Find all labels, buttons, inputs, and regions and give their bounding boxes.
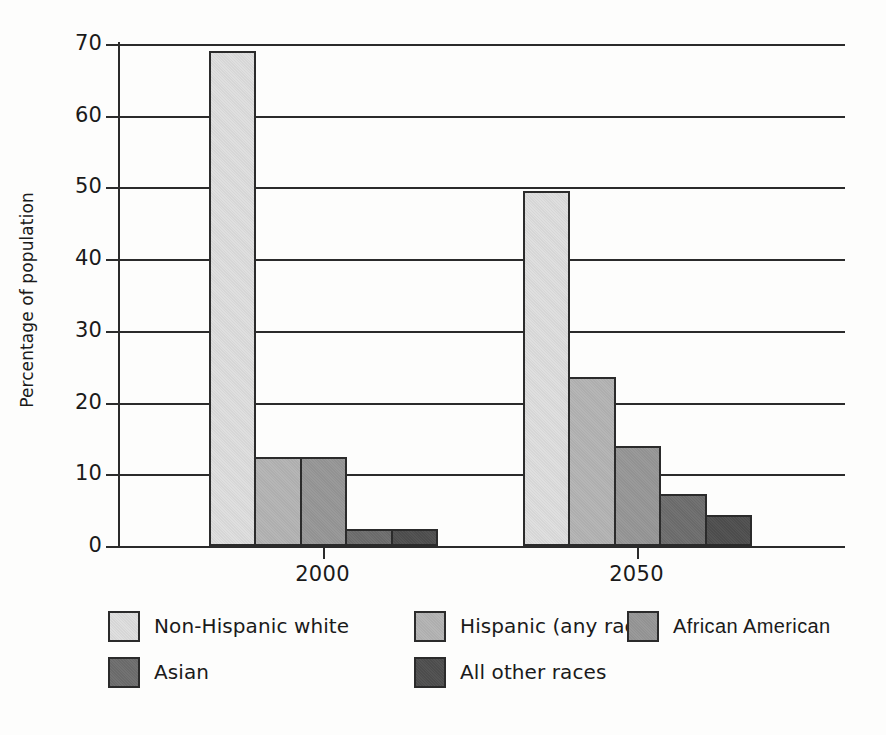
y-axis-tick [106, 403, 118, 405]
legend-item: Asian [108, 652, 209, 692]
y-axis-tick-label: 30 [42, 320, 102, 341]
legend-item: Hispanic (any race) [414, 606, 656, 646]
x-axis-tick-label: 2050 [567, 562, 707, 586]
bar-chart: Percentage of population 010203040506070… [0, 0, 886, 600]
chart-legend: Non-Hispanic whiteHispanic (any race)Afr… [108, 606, 878, 698]
y-axis-tick-label: 40 [42, 248, 102, 269]
y-axis-tick-label: 60 [42, 105, 102, 126]
y-axis-tick [106, 331, 118, 333]
bar [568, 377, 615, 546]
gridline [118, 44, 845, 46]
legend-swatch [627, 611, 659, 642]
y-axis-tick-label: 10 [42, 463, 102, 484]
bar [254, 457, 301, 546]
legend-swatch [108, 657, 140, 688]
legend-swatch [414, 657, 446, 688]
x-axis-tick [323, 546, 325, 559]
x-axis-tick [637, 546, 639, 559]
legend-swatch [414, 611, 446, 642]
y-axis-tick [106, 546, 118, 548]
bar [614, 446, 661, 546]
y-axis-tick-label: 50 [42, 176, 102, 197]
legend-label: All other races [460, 660, 607, 684]
plot-area [118, 44, 845, 546]
y-axis-tick [106, 44, 118, 46]
legend-label: Non-Hispanic white [154, 614, 349, 638]
y-axis-tick [106, 187, 118, 189]
y-axis-tick-label: 20 [42, 392, 102, 413]
x-axis-baseline [118, 546, 845, 548]
legend-item: African American [627, 606, 831, 646]
chart-page: Percentage of population 010203040506070… [0, 0, 886, 735]
y-axis-tick [106, 474, 118, 476]
y-axis-tick [106, 259, 118, 261]
y-axis-labels: 010203040506070 [30, 0, 102, 600]
bar [705, 515, 752, 546]
bar [523, 191, 570, 546]
legend-row: Non-Hispanic whiteHispanic (any race)Afr… [108, 606, 878, 646]
legend-row: AsianAll other races [108, 652, 878, 692]
bar [209, 51, 256, 546]
legend-label: African American [673, 615, 831, 638]
y-axis-tick [106, 116, 118, 118]
bar [391, 529, 438, 546]
bar [345, 529, 392, 546]
legend-item: Non-Hispanic white [108, 606, 349, 646]
legend-item: All other races [414, 652, 607, 692]
bar [659, 494, 706, 546]
y-axis-tick-label: 0 [42, 535, 102, 556]
bar [300, 457, 347, 546]
legend-swatch [108, 611, 140, 642]
x-axis-tick-label: 2000 [253, 562, 393, 586]
legend-label: Asian [154, 660, 209, 684]
y-axis-tick-label: 70 [42, 33, 102, 54]
